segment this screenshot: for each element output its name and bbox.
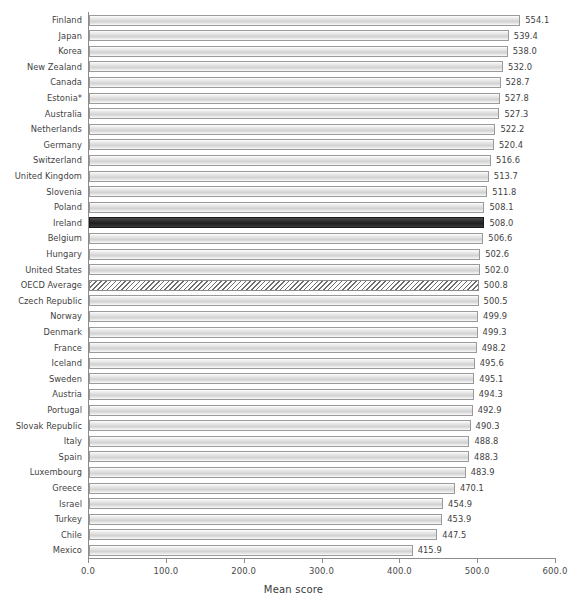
- bar: [89, 139, 494, 150]
- bar: [89, 327, 478, 338]
- x-tick-mark: [322, 558, 323, 563]
- bar: [89, 61, 503, 72]
- bar: [89, 529, 437, 540]
- bar: [89, 436, 469, 447]
- bar-value-label: 415.9: [418, 542, 442, 559]
- bar: [89, 124, 495, 135]
- bar: [89, 155, 491, 166]
- x-tick-label: 400.0: [387, 566, 412, 576]
- bar: [89, 171, 489, 182]
- bar: [89, 311, 478, 322]
- bar: [89, 186, 487, 197]
- bar: [89, 389, 474, 400]
- bar: [89, 420, 471, 431]
- bar: [89, 264, 480, 275]
- bar: [89, 373, 474, 384]
- bar: [89, 217, 484, 228]
- bar: [89, 280, 479, 291]
- x-tick-mark: [555, 558, 556, 563]
- bar: [89, 342, 477, 353]
- bar: [89, 545, 413, 556]
- bar: [89, 249, 480, 260]
- bar: [89, 451, 469, 462]
- bar: [89, 93, 500, 104]
- bar: [89, 358, 475, 369]
- x-axis-title: Mean score: [0, 584, 587, 595]
- category-label: Mexico: [0, 542, 82, 559]
- bar: [89, 498, 443, 509]
- bar-chart: Finland554.1Japan539.4Korea538.0New Zeal…: [0, 0, 587, 614]
- x-tick-mark: [399, 558, 400, 563]
- x-tick-label: 0.0: [81, 566, 95, 576]
- bar: [89, 108, 499, 119]
- x-tick-label: 300.0: [309, 566, 334, 576]
- x-tick-label: 600.0: [543, 566, 568, 576]
- bar: [89, 467, 466, 478]
- x-tick-label: 200.0: [231, 566, 256, 576]
- bar: [89, 295, 479, 306]
- x-tick-mark: [477, 558, 478, 563]
- bar: [89, 30, 509, 41]
- bar: [89, 514, 442, 525]
- bar: [89, 77, 501, 88]
- bar: [89, 15, 520, 26]
- x-tick-label: 100.0: [153, 566, 178, 576]
- x-tick-mark: [244, 558, 245, 563]
- bar: [89, 46, 508, 57]
- x-tick-mark: [166, 558, 167, 563]
- bar: [89, 202, 484, 213]
- x-tick-label: 500.0: [465, 566, 490, 576]
- x-tick-mark: [88, 558, 89, 563]
- bar: [89, 483, 455, 494]
- bar: [89, 405, 473, 416]
- bar: [89, 233, 483, 244]
